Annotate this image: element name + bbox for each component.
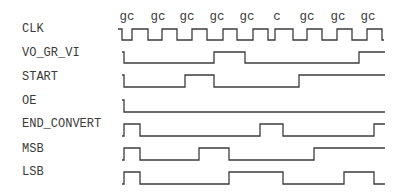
waveform-lsb (122, 172, 385, 184)
waveform-vo-gr-vi (122, 52, 385, 63)
clock-phase-labels: gcgcgcgcgccgcgcgc (119, 10, 375, 24)
signal-labels: CLKVO_GR_VISTARTOEEND_CONVERTMSBLSB (22, 22, 101, 179)
waveform-clk (118, 29, 384, 40)
waveform-oe (122, 100, 385, 112)
signal-label-vo-gr-vi: VO_GR_VI (22, 46, 80, 60)
clock-phase-label: gc (299, 10, 314, 24)
clock-phase-label: c (273, 10, 281, 24)
waveforms (118, 29, 385, 184)
clock-phase-label: gc (150, 10, 165, 24)
clock-phase-label: gc (330, 10, 345, 24)
clock-phase-label: gc (209, 10, 224, 24)
waveform-msb (122, 148, 385, 160)
clock-phase-label: gc (360, 10, 375, 24)
signal-label-oe: OE (22, 94, 36, 108)
clock-phase-label: gc (239, 10, 254, 24)
signal-label-msb: MSB (22, 142, 44, 156)
signal-label-lsb: LSB (22, 165, 44, 179)
signal-label-start: START (22, 70, 58, 84)
waveform-start (122, 75, 385, 87)
waveform-end-convert (122, 124, 385, 136)
clock-phase-label: gc (119, 10, 134, 24)
clock-phase-label: gc (179, 10, 194, 24)
timing-diagram: gcgcgcgcgccgcgcgc CLKVO_GR_VISTARTOEEND_… (0, 0, 404, 195)
signal-label-end-convert: END_CONVERT (22, 117, 101, 131)
signal-label-clk: CLK (22, 22, 44, 36)
